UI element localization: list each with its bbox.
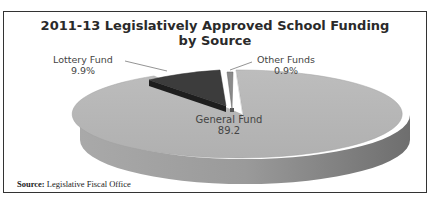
label-lottery-fund: Lottery Fund 9.9% bbox=[40, 54, 126, 76]
leader-line-lottery bbox=[125, 61, 167, 71]
source-label: Source: bbox=[17, 179, 45, 189]
label-other-funds: Other Funds 0.9% bbox=[248, 54, 324, 76]
pie-slice-other-funds bbox=[227, 72, 233, 109]
chart-frame: 2011-13 Legislatively Approved School Fu… bbox=[3, 11, 427, 193]
pie-chart bbox=[4, 12, 428, 194]
label-general-fund: General Fund 89.2 bbox=[189, 114, 269, 136]
source-text: Legislative Fiscal Office bbox=[47, 179, 131, 189]
source-note: Source: Legislative Fiscal Office bbox=[17, 179, 131, 189]
